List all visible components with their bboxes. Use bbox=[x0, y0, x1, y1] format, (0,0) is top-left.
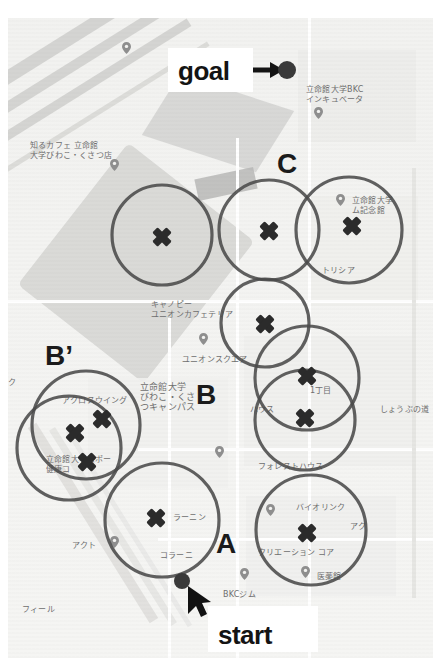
marker-7 bbox=[61, 419, 89, 447]
figure-canvas: 立命館大学BKC インキュベータ知るカフェ 立命館 大学びわこ・くさつ店立命館大… bbox=[0, 0, 441, 672]
marker-2 bbox=[255, 217, 283, 245]
marker-1 bbox=[148, 223, 176, 251]
marker-4 bbox=[251, 310, 279, 338]
start-point-marker bbox=[174, 573, 190, 589]
start-label: start bbox=[218, 622, 272, 648]
marker-9 bbox=[73, 448, 101, 476]
goal-point-marker bbox=[278, 61, 296, 79]
cluster-label-B: B bbox=[196, 381, 216, 409]
marker-11 bbox=[293, 519, 321, 547]
annotation-layer bbox=[0, 0, 441, 672]
marker-5 bbox=[293, 362, 321, 390]
cluster-label-Bprime: B’ bbox=[45, 342, 73, 370]
cluster-label-A: A bbox=[216, 530, 236, 558]
marker-3 bbox=[338, 212, 366, 240]
cluster-label-C: C bbox=[277, 150, 297, 178]
marker-10 bbox=[142, 504, 170, 532]
goal-label: goal bbox=[178, 58, 229, 84]
